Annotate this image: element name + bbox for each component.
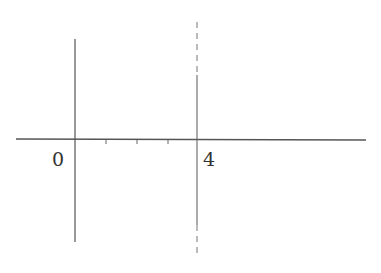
label-zero: 0: [52, 150, 64, 169]
horizontal-axis: [16, 139, 366, 140]
number-line-diagram: [0, 0, 381, 273]
label-four: 4: [203, 150, 215, 169]
